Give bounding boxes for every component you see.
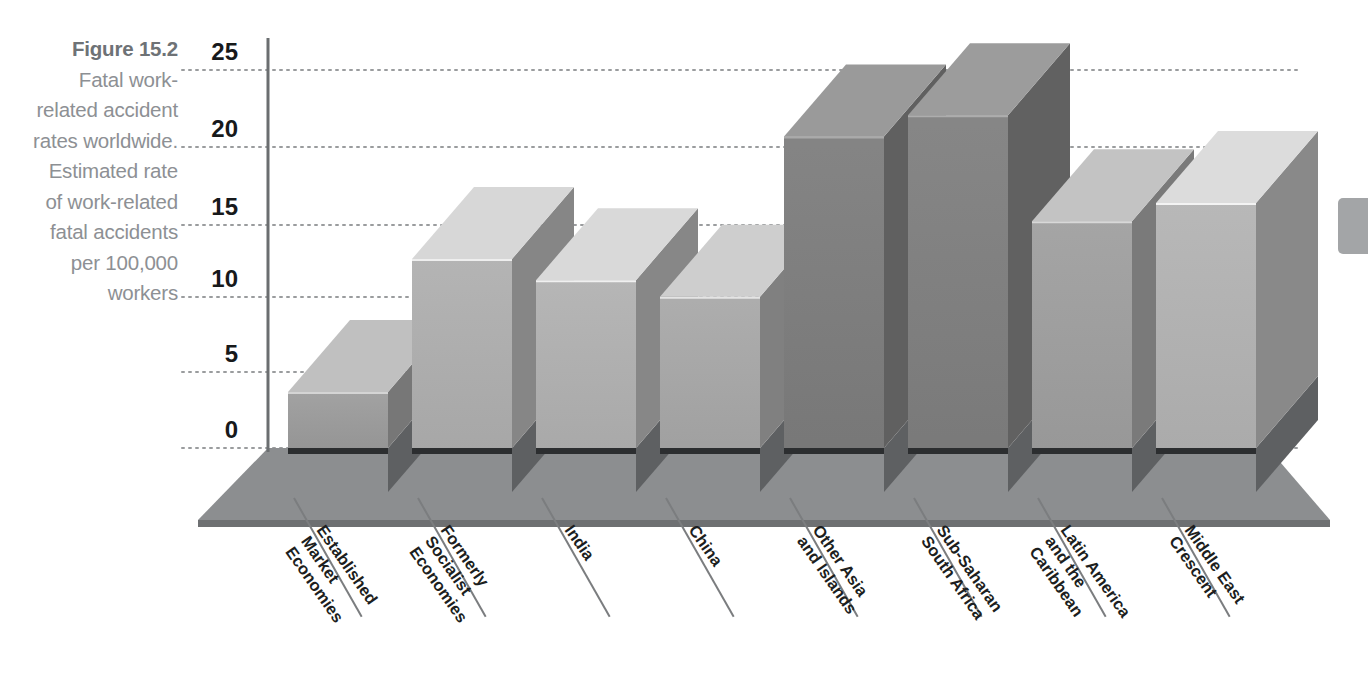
ytick-label-20: 20 [211,115,238,142]
bar-front-shading-8 [1156,203,1256,448]
bar-base-strip-4 [660,448,760,454]
page-edge-tab[interactable] [1338,198,1368,254]
bar-base-strip-1 [288,448,388,454]
category-label-text-7: Latin Americaand theCaribbean [1026,521,1135,643]
ytick-label-5: 5 [225,340,238,367]
bar-front-shading-7 [1032,221,1132,448]
bar-base-strip-7 [1032,448,1132,454]
bar-front-shading-4 [660,297,760,448]
bar-group [288,43,1318,492]
floor-front-edge [198,520,1330,527]
bar-front-shading-1 [288,392,388,448]
category-label-text-1: EstablishedMarketEconomies [282,521,381,629]
bar-base-strip-5 [784,448,884,454]
ytick-label-25: 25 [211,38,238,65]
ytick-label-10: 10 [211,265,238,292]
bar-front-shading-6 [908,115,1008,448]
bar-front-shading-3 [536,280,636,448]
bar-base-strip-3 [536,448,636,454]
bar-base-strip-8 [1156,448,1256,454]
category-label-text-8: Middle EastCrescent [1166,521,1249,618]
bar-front-shading-2 [412,259,512,448]
ytick-label-0: 0 [225,416,238,443]
ytick-label-15: 15 [211,193,238,220]
bar-base-strip-2 [412,448,512,454]
bar-base-strip-6 [908,448,1008,454]
category-label-text-4: China [686,521,728,570]
bar-chart-3d: 25 20 15 10 5 0 EstablishedMarketEconomi… [0,0,1368,696]
category-label-text-5: Other Asiaand Islands [794,521,876,617]
figure-page: Figure 15.2 Fatal work-related accident … [0,0,1368,696]
category-label-text-6: Sub-SaharanSouth Africa [918,521,1007,626]
y-axis-tick-labels: 25 20 15 10 5 0 [211,38,238,443]
category-label-text-2: FormerlySocialistEconomies [406,521,502,625]
bar-front-shading-5 [784,137,884,448]
bar-8 [1156,131,1318,492]
